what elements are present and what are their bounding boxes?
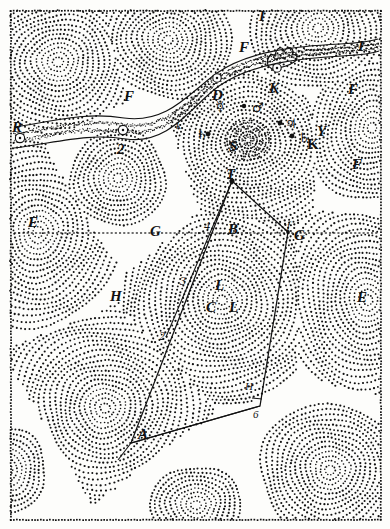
- figure-label-b: B: [228, 222, 238, 237]
- figure-label-two: 2: [159, 330, 165, 342]
- figure-label-l1: L: [215, 278, 224, 293]
- figure-label-f_it: f: [287, 220, 290, 231]
- planet-dot-dot-saturn-right: [290, 134, 295, 139]
- figure-label-h_right: H: [245, 381, 253, 392]
- figure-label-a: A: [138, 427, 148, 442]
- comet-node-center-node-D: [216, 77, 219, 80]
- figure-label-r: R: [12, 120, 22, 135]
- dashed-axis-G-G: [14, 232, 377, 233]
- corner-tick-6: [252, 398, 262, 399]
- figure-label-e_left: E: [28, 215, 38, 230]
- figure-label-l2: L: [229, 300, 238, 315]
- figure-label-i_top: I: [259, 9, 265, 24]
- planet-dot-dot-jupiter: [278, 121, 283, 126]
- figure-label-f2: F: [239, 40, 249, 55]
- figure-label-g_right: G: [294, 228, 305, 243]
- engraving-plate: R2FDIFKIFFktSYKTEGB4fGE3LCLH2H6A☿♂♃♄♄: [0, 0, 390, 529]
- planet-dot-dot-mars: [242, 104, 246, 108]
- figure-label-f1: F: [124, 89, 134, 104]
- figure-label-k_small: k: [176, 120, 181, 131]
- comet-node-center-node-R: [19, 137, 22, 140]
- comet-node-center-node-K: [276, 67, 279, 70]
- planet-symbol-mercury: ☿: [216, 100, 224, 113]
- figure-label-h_left: H: [110, 289, 122, 304]
- planet-symbol-saturn_right: ♄: [298, 131, 310, 144]
- comet-node-center-node-Q: [122, 129, 125, 132]
- figure-label-f4: F: [352, 157, 362, 172]
- planet-symbol-jupiter: ♃: [285, 117, 297, 130]
- quad-line-A-6: [131, 406, 260, 443]
- figure-label-c: C: [206, 300, 216, 315]
- figure-label-three: 3: [180, 275, 186, 287]
- figure-label-q: 2: [117, 142, 125, 157]
- planet-symbol-saturn_left: ♄: [196, 128, 208, 141]
- figure-label-e_right: E: [357, 290, 367, 305]
- figure-label-s: S: [229, 139, 237, 154]
- figure-label-k_comet: K: [269, 81, 279, 96]
- figure-label-g_left: G: [150, 224, 161, 239]
- figure-label-four: 4: [204, 220, 210, 232]
- quad-line-T-2: [166, 181, 232, 337]
- figure-label-i_right: I: [358, 39, 364, 54]
- stipple-vortices: [9, 9, 381, 520]
- vortex-engraving: [0, 0, 390, 529]
- planet-symbol-mars: ♂: [252, 101, 264, 114]
- figure-label-f3: F: [348, 82, 358, 97]
- figure-label-t: T: [226, 167, 235, 182]
- figure-label-six: 6: [253, 409, 259, 420]
